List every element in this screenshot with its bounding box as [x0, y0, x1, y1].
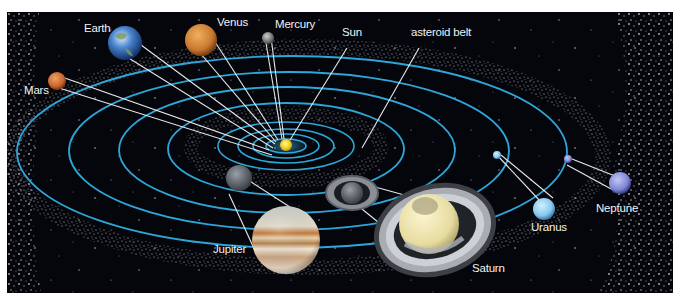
neptune-icon	[609, 172, 631, 194]
uranus-icon	[533, 198, 555, 220]
jupiter-icon	[252, 206, 320, 274]
mars-icon	[48, 72, 66, 90]
earth-icon	[108, 26, 142, 60]
label-mercury: Mercury	[275, 18, 315, 30]
label-uranus: Uranus	[531, 221, 567, 233]
label-neptune: Neptune	[596, 202, 638, 214]
jupiter-orbit-marker	[226, 165, 252, 191]
solar-system-diagram: Earth Venus Mercury Sun asteroid belt Ma…	[7, 12, 673, 293]
label-mars: Mars	[24, 84, 49, 96]
label-asteroid-belt: asteroid belt	[411, 26, 471, 38]
label-jupiter: Jupiter	[213, 243, 246, 255]
saturn-orbit-marker	[326, 176, 378, 210]
sun-icon	[280, 139, 292, 151]
label-earth: Earth	[84, 22, 111, 34]
uranus-orbit-marker	[493, 151, 501, 159]
label-saturn: Saturn	[472, 262, 505, 274]
diagram-canvas	[7, 12, 673, 293]
label-venus: Venus	[217, 16, 248, 28]
mercury-icon	[262, 32, 274, 44]
neptune-orbit-marker	[564, 155, 572, 163]
venus-icon	[185, 24, 217, 56]
label-sun: Sun	[342, 26, 362, 38]
